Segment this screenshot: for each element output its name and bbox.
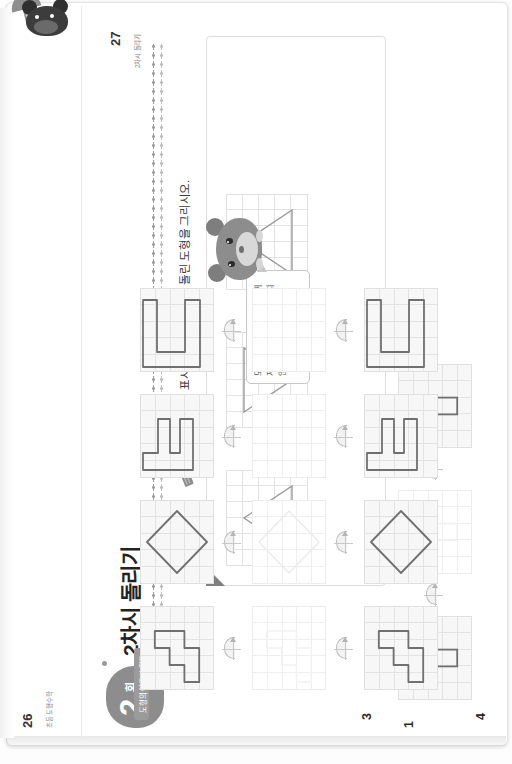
problem-5-grid-answer[interactable] (252, 394, 326, 478)
problem-3-grid-given-a (140, 606, 214, 690)
scanned-worksheet: 2 회 2차시 돌리기 주어진 도형을 표시된 방향으로 각각 돌린 도형을 그… (0, 0, 512, 764)
problem-3-grid-given-b (364, 606, 438, 690)
problem-3-shape-2 (364, 606, 438, 690)
rotate-icon (334, 318, 354, 344)
problem-4-grid-given-b (364, 500, 438, 584)
problem-5-grid-given-a (140, 394, 214, 478)
page-footer-note-27: 2차시 돌리기 (132, 34, 142, 68)
rotate-icon (334, 530, 354, 556)
problem-3-shape (140, 606, 214, 690)
rat-character-icon (14, 0, 72, 40)
problem-5-shape-2 (364, 394, 438, 478)
problem-6-shape-2 (364, 288, 438, 372)
problem-5-grid-given-b (364, 394, 438, 478)
problem-4-grid-given-a (140, 500, 214, 584)
rotate-icon (334, 424, 354, 450)
problem-6-grid-answer[interactable] (252, 288, 326, 372)
problem-4-shape-2 (364, 500, 438, 584)
rotate-icon (334, 636, 354, 662)
problem-3-grid-answer[interactable] (252, 606, 326, 690)
rotate-icon (222, 636, 242, 662)
problem-6-grid-given-b (364, 288, 438, 372)
problem-4-answer-hint (252, 500, 326, 584)
page-number-27: 27 (108, 32, 123, 46)
problem-number-4: 4 (474, 713, 488, 720)
rotate-icon (222, 318, 242, 344)
problem-number-3: 3 (360, 713, 374, 720)
problem-5-shape (140, 394, 214, 478)
problem-6-shape (140, 288, 214, 372)
problem-4-shape (140, 500, 214, 584)
problem-6-grid-given-a (140, 288, 214, 372)
problem-4-grid-answer[interactable] (252, 500, 326, 584)
problem-3-answer-hint (252, 606, 326, 690)
book-page-27: 도형의 이동과 합동 27 2차시 돌리기 3 (98, 10, 502, 736)
rotate-icon (222, 530, 242, 556)
rotate-icon (222, 424, 242, 450)
